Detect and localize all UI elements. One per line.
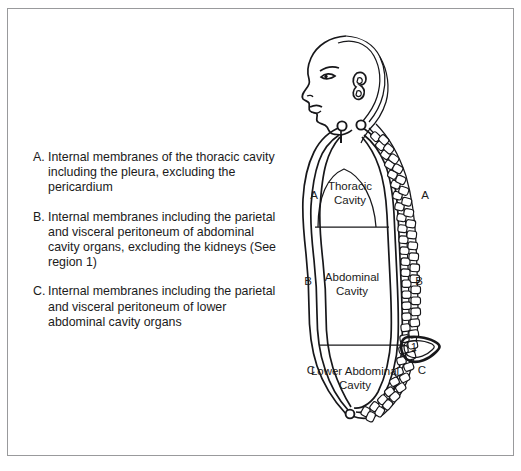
legend-marker-a: A. — [33, 150, 48, 196]
legend-item-c: C. Internal membranes including the pari… — [33, 284, 283, 330]
legend-marker-c: C. — [33, 284, 48, 330]
legend-marker-b: B. — [33, 210, 48, 271]
diagram-page: A. Internal membranes of the thoracic ca… — [0, 0, 521, 471]
legend-text-a: Internal membranes of the thoracic cavit… — [48, 150, 283, 196]
legend-item-a: A. Internal membranes of the thoracic ca… — [33, 150, 283, 196]
legend-item-b: B. Internal membranes including the pari… — [33, 210, 283, 271]
legend-list: A. Internal membranes of the thoracic ca… — [33, 150, 283, 344]
legend-text-c: Internal membranes including the parieta… — [48, 284, 283, 330]
legend-text-b: Internal membranes including the parieta… — [48, 210, 283, 271]
